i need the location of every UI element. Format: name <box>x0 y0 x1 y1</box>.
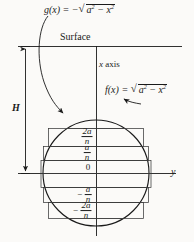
g-function-label: g(x) = −√a2 − x2 <box>44 4 115 15</box>
depth-label: H <box>12 103 20 113</box>
g-function-equals: = <box>63 4 70 15</box>
radical-icon: √ <box>131 83 137 94</box>
f-function-equals: = <box>121 84 128 95</box>
f-function-name: f(x) <box>105 84 119 95</box>
math-figure: g(x) = −√a2 − x2 Surface x axis f(x) = √… <box>0 0 194 242</box>
f-function-label: f(x) = √a2 − x2 <box>105 84 167 95</box>
tick-sign: − <box>72 207 80 216</box>
tick-neg-2a-over-n: −2an <box>72 201 91 221</box>
surface-label: Surface <box>60 32 91 42</box>
g-function-name: g(x) <box>44 4 60 15</box>
inscribed-rectangles <box>41 129 151 219</box>
y-axis-label: y <box>171 167 175 177</box>
g-function-sqrt: √a2 − x2 <box>79 4 115 15</box>
figure-canvas <box>0 0 194 242</box>
g-function-sign: − <box>72 4 79 15</box>
fraction: an <box>84 143 91 163</box>
radical-icon: √ <box>79 3 85 14</box>
x-axis-label: x axis <box>99 60 120 69</box>
fraction: 2an <box>81 201 92 221</box>
x-axis-word: axis <box>103 59 120 69</box>
f-function-pointer-arrow <box>124 99 141 104</box>
tick-a-over-n: an <box>82 143 91 163</box>
f-function-sqrt: √a2 − x2 <box>131 84 167 95</box>
tick-sign: − <box>77 191 85 200</box>
tick-zero: 0 <box>86 163 91 172</box>
circle-outline <box>43 120 149 226</box>
